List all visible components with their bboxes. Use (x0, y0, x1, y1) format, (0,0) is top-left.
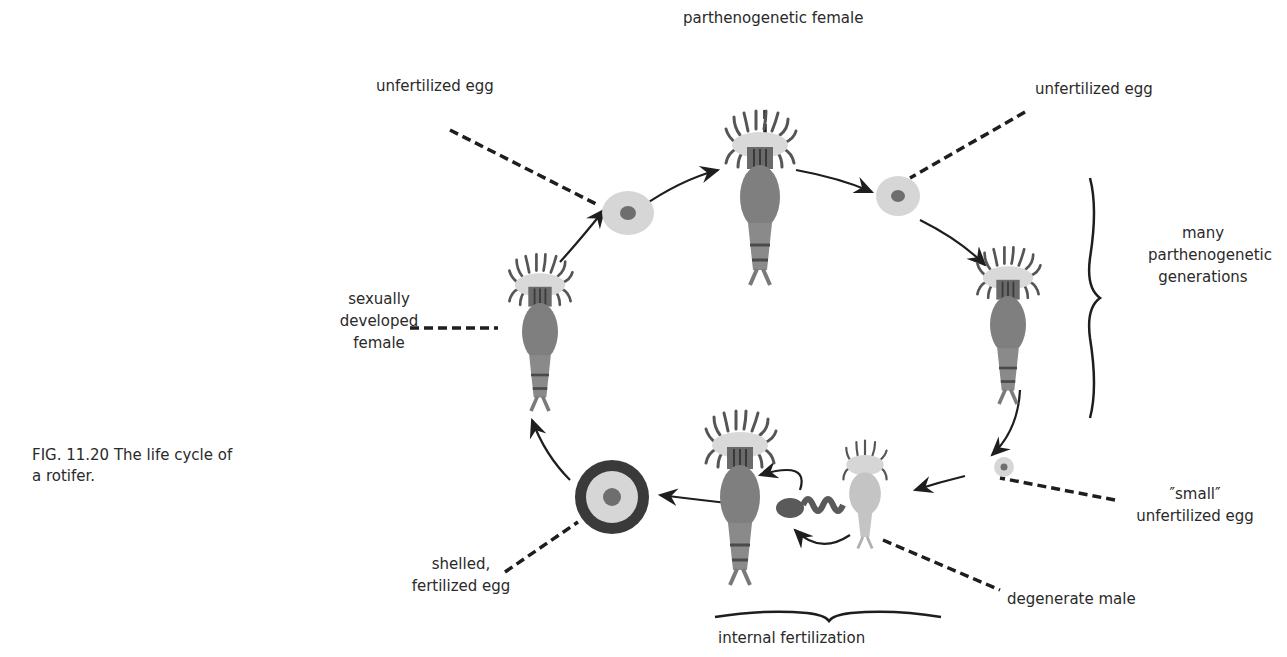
label-many-generations: many parthenogenetic generations (1148, 222, 1258, 288)
label-shelled-fertilized-egg: shelled, fertilized egg (396, 553, 526, 597)
sexual-line1: sexually (334, 288, 424, 310)
label-sexually-developed-female: sexually developed female (334, 288, 424, 354)
small-egg (994, 457, 1014, 477)
label-internal-fertilization: internal fertilization (718, 627, 865, 649)
label-unfertilized-egg-right: unfertilized egg (1035, 78, 1153, 100)
shelled-line1: shelled, (396, 553, 526, 575)
sexual-line2: developed (334, 310, 424, 332)
caption-line2: a rotifer. (32, 466, 262, 487)
many-line1: many (1148, 222, 1258, 244)
sexual-line3: female (334, 332, 424, 354)
shelled-egg (575, 460, 649, 534)
small-line1: ″small″ (1100, 483, 1287, 505)
label-small-unfertilized-egg: ″small″ unfertilized egg (1100, 483, 1287, 527)
many-line3: generations (1148, 266, 1258, 288)
many-line2: parthenogenetic (1148, 244, 1258, 266)
label-degenerate-male: degenerate male (1007, 588, 1136, 610)
egg-right (876, 176, 920, 216)
label-parthenogenetic-female: parthenogenetic female (683, 7, 863, 29)
figure-caption: FIG. 11.20 The life cycle of a rotifer. (32, 445, 262, 487)
shelled-line2: fertilized egg (396, 575, 526, 597)
small-line2: unfertilized egg (1100, 505, 1287, 527)
egg-left (602, 191, 654, 235)
label-unfertilized-egg-left: unfertilized egg (376, 75, 494, 97)
caption-line1: FIG. 11.20 The life cycle of (32, 445, 262, 466)
